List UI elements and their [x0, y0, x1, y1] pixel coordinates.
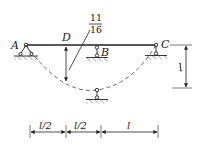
beam-diagram: A B C D 11 16 l	[0, 0, 202, 151]
right-dimension-label: l	[177, 61, 184, 75]
bottom-dimension-3: l	[127, 120, 130, 131]
bottom-dimension-1: l/2	[39, 120, 52, 131]
label-b: B	[100, 46, 109, 59]
deflection-curve	[26, 45, 156, 90]
label-d: D	[61, 31, 71, 44]
label-a: A	[10, 39, 19, 52]
bottom-dimension-2: l/2	[74, 120, 87, 131]
fraction-numerator: 11	[90, 12, 102, 23]
fraction-denominator: 16	[90, 24, 102, 35]
fraction-leader-line	[69, 30, 90, 70]
label-c: C	[161, 38, 170, 51]
